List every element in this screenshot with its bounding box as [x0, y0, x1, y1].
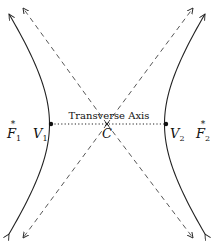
vertex-label-v2: V2	[170, 126, 184, 143]
vertex-label-v1: V1	[33, 126, 47, 143]
asymptote-line	[23, 124, 107, 238]
center-label: C	[102, 126, 112, 141]
focus-label-f2: F2	[195, 126, 210, 143]
vertex-dot-icon	[49, 122, 53, 126]
transverse-axis-label: Transverse Axis	[69, 110, 150, 121]
hyperbola-right-branch	[165, 14, 206, 234]
vertex-dot-icon	[164, 122, 168, 126]
focus-label-f1: F1	[6, 126, 21, 143]
hyperbola-diagram: * * Transverse Axis F1 F2 V1 V2 C	[0, 0, 215, 247]
asymptote-line	[107, 8, 193, 124]
